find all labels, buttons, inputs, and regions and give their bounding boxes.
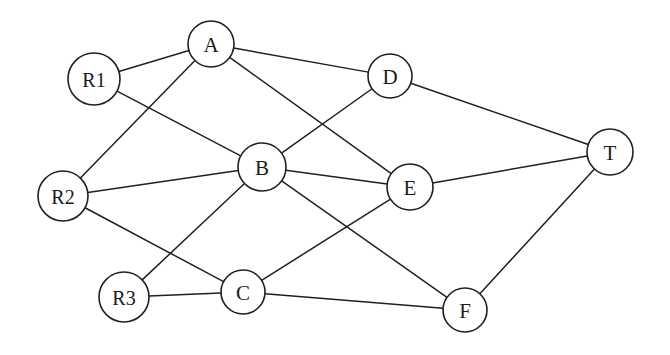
graph-edge-B-E: [286, 170, 387, 184]
node-label-R2: R2: [51, 186, 74, 208]
graph-edge-R1-B: [117, 91, 241, 156]
graph-node-R2[interactable]: R2: [38, 171, 88, 221]
node-label-R3: R3: [112, 287, 135, 309]
graph-edge-R3-C: [149, 293, 221, 296]
graph-canvas: R1ADTBER2R3CF: [0, 0, 670, 355]
graph-edge-R1-A: [119, 51, 189, 72]
graph-edge-R2-B: [88, 170, 239, 192]
graph-edge-D-T: [411, 83, 588, 144]
edge-layer: [80, 48, 594, 308]
node-label-A: A: [203, 33, 219, 57]
node-label-F: F: [459, 299, 471, 323]
graph-node-R3[interactable]: R3: [99, 272, 149, 322]
graph-edge-R2-C: [85, 208, 224, 282]
graph-node-F[interactable]: F: [443, 288, 487, 332]
graph-node-D[interactable]: D: [368, 54, 412, 98]
graph-node-C[interactable]: C: [221, 270, 265, 314]
graph-edge-A-D: [234, 48, 369, 72]
graph-node-R1[interactable]: R1: [68, 53, 120, 105]
graph-node-A[interactable]: A: [188, 21, 234, 67]
node-label-B: B: [255, 156, 269, 180]
node-label-E: E: [404, 176, 417, 200]
graph-edge-C-F: [265, 294, 443, 308]
node-label-R1: R1: [82, 69, 105, 91]
node-label-T: T: [604, 141, 617, 165]
graph-node-T[interactable]: T: [587, 129, 633, 175]
graph-edge-F-T: [480, 169, 595, 294]
node-label-C: C: [236, 281, 250, 305]
node-label-D: D: [382, 65, 397, 89]
graph-node-B[interactable]: B: [238, 143, 286, 191]
graph-node-E[interactable]: E: [387, 164, 433, 210]
graph-edge-D-B: [282, 89, 373, 153]
graph-edge-E-T: [433, 156, 588, 183]
network-graph-diagram: R1ADTBER2R3CF: [0, 0, 670, 355]
